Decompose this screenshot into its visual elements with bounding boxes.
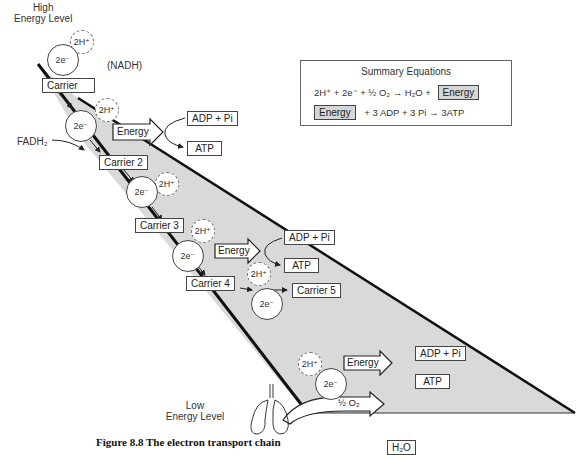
adp-pi-box-1: ADP + Pi	[187, 111, 238, 126]
carrier-3: Carrier 3	[135, 218, 184, 233]
proton-circle-4: 2H⁺	[191, 219, 215, 243]
fadh2-label: FADH₂	[17, 136, 48, 147]
water-box: H₂O	[387, 440, 416, 455]
summary-title: Summary Equations	[301, 66, 511, 77]
electron-circle-5: 2e⁻	[251, 288, 283, 320]
low-energy-label: Low Energy Level	[160, 400, 230, 422]
energy-label-3: Energy	[347, 357, 379, 368]
atp-box-3: ATP	[415, 374, 450, 389]
electron-circle-4: 2e⁻	[172, 240, 204, 272]
energy-box-eq2: Energy	[314, 105, 356, 120]
energy-label-1: Energy	[117, 126, 149, 137]
figure-caption: Figure 8.8 The electron transport chain	[96, 436, 281, 448]
summary-eq1: 2H⁺ + 2e⁻ + ½ O₂ → H₂O + Energy	[314, 85, 479, 100]
summary-equations-panel: Summary Equations 2H⁺ + 2e⁻ + ½ O₂ → H₂O…	[300, 60, 512, 126]
carrier-5: Carrier 5	[292, 283, 341, 298]
adp-pi-box-3: ADP + Pi	[415, 346, 466, 361]
proton-circle-5: 2H⁺	[247, 262, 271, 286]
carrier-2: Carrier 2	[99, 155, 148, 170]
electron-circle-2: 2e⁻	[65, 110, 97, 142]
adp-pi-box-2: ADP + Pi	[284, 230, 335, 245]
proton-circle-3: 2H⁺	[155, 172, 179, 196]
oxygen-label: ½ O₂	[338, 397, 360, 408]
summary-eq2: Energy + 3 ADP + 3 Pi → 3ATP	[314, 105, 464, 120]
nadh-label: (NADH)	[107, 60, 142, 71]
electron-circle-3: 2e⁻	[126, 176, 158, 208]
carrier-4: Carrier 4	[186, 276, 235, 291]
electron-circle-6: 2e⁻	[315, 368, 347, 400]
energy-box-eq1: Energy	[438, 85, 480, 100]
electron-circle-1: 2e⁻	[47, 44, 79, 76]
atp-box-1: ATP	[187, 141, 222, 156]
atp-box-2: ATP	[284, 258, 319, 273]
energy-label-2: Energy	[218, 245, 250, 256]
high-energy-label: High Energy Level	[14, 2, 72, 24]
proton-circle-2: 2H⁺	[95, 98, 119, 122]
carrier-1: Carrier	[42, 78, 95, 93]
lungs-icon	[251, 384, 288, 434]
